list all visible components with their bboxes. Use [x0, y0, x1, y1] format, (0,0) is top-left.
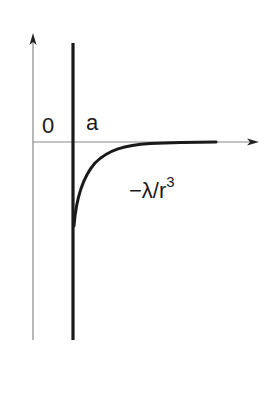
- potential-formula-exponent: 3: [166, 173, 174, 190]
- origin-label: 0: [42, 115, 54, 137]
- wall-position-label: a: [86, 112, 98, 134]
- potential-formula-main: −λ/r: [129, 178, 166, 203]
- potential-formula-label: −λ/r3: [129, 180, 175, 202]
